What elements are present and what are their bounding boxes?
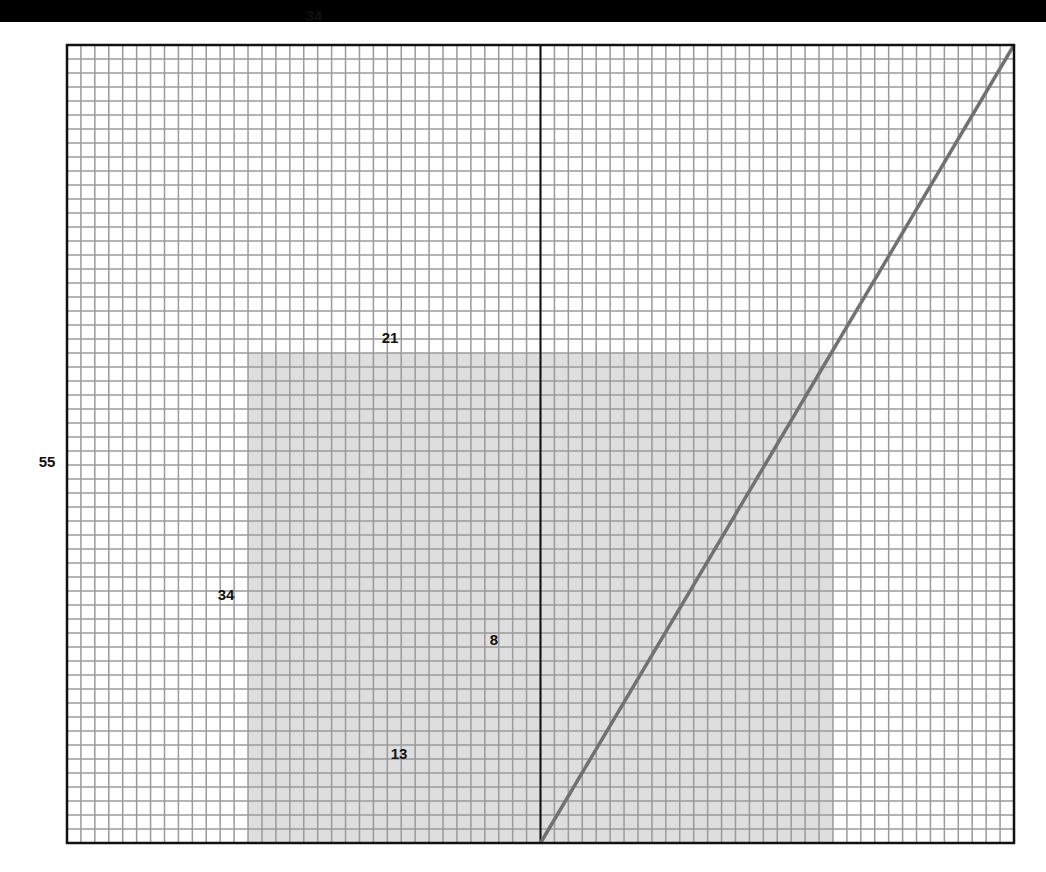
label-inner-8: 8 [490,631,498,648]
label-shaded-top-21: 21 [382,329,399,346]
fibonacci-grid-diagram [0,0,1046,872]
label-inner-13: 13 [391,745,408,762]
label-left-55: 55 [39,453,56,470]
label-shaded-left-34: 34 [218,586,235,603]
label-top-34: 34 [306,7,323,24]
